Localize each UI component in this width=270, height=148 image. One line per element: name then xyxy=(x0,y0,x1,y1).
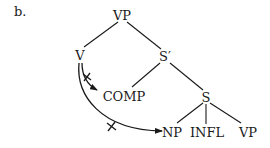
edge-sbar-comp xyxy=(132,63,160,87)
edge-sbar-s xyxy=(170,63,203,90)
movement-arrow-v-to-comp xyxy=(82,63,97,90)
edge-vp-v xyxy=(84,22,118,47)
node-np: NP xyxy=(162,126,182,139)
figure-item-label: b. xyxy=(14,5,26,18)
edge-vp-sbar xyxy=(127,22,161,49)
node-infl: INFL xyxy=(190,126,224,139)
syntax-tree-diagram: b. VP V S′ COMP S NP INFL VP xyxy=(0,0,270,148)
node-s: S xyxy=(202,91,211,104)
edge-s-vp xyxy=(210,103,241,123)
node-vp-leaf: VP xyxy=(239,126,257,139)
tree-lines xyxy=(0,0,270,148)
block-mark-np xyxy=(107,122,116,131)
edge-s-np xyxy=(177,103,203,123)
node-v: V xyxy=(75,49,84,62)
node-vp-root: VP xyxy=(113,9,131,22)
node-s-bar: S′ xyxy=(159,50,171,63)
node-comp: COMP xyxy=(103,90,146,103)
